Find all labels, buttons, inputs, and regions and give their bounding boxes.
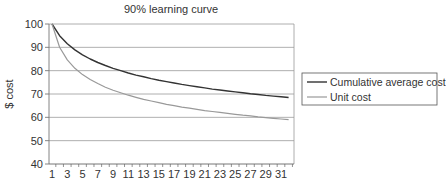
x-tick-label: 25 bbox=[229, 168, 241, 180]
series-lines bbox=[52, 24, 289, 120]
chart-title: 90% learning curve bbox=[124, 3, 218, 15]
y-axis-label: $ cost bbox=[3, 79, 15, 108]
legend-label-unit: Unit cost bbox=[330, 91, 371, 103]
y-tick-label: 100 bbox=[25, 18, 43, 30]
x-tick-label: 5 bbox=[79, 168, 85, 180]
x-tick-label: 29 bbox=[260, 168, 272, 180]
legend: Cumulative average cost Unit cost bbox=[302, 73, 446, 105]
x-tick-label: 7 bbox=[95, 168, 101, 180]
y-tick-label: 80 bbox=[31, 65, 43, 77]
x-tick-label: 9 bbox=[110, 168, 116, 180]
legend-label-cumulative: Cumulative average cost bbox=[330, 76, 446, 88]
y-axis: 405060708090100 bbox=[25, 18, 49, 170]
x-tick-label: 3 bbox=[64, 168, 70, 180]
x-axis: 135791113151719212325272931 bbox=[49, 164, 294, 180]
y-tick-label: 90 bbox=[31, 41, 43, 53]
x-tick-label: 11 bbox=[123, 168, 134, 180]
x-tick-label: 1 bbox=[49, 168, 55, 180]
x-tick-label: 23 bbox=[214, 168, 226, 180]
y-tick-label: 60 bbox=[31, 111, 43, 123]
unit-cost-line bbox=[52, 24, 289, 120]
y-tick-label: 40 bbox=[31, 158, 43, 170]
x-tick-label: 13 bbox=[137, 168, 149, 180]
y-tick-label: 70 bbox=[31, 88, 43, 100]
x-tick-label: 17 bbox=[168, 168, 180, 180]
y-tick-label: 50 bbox=[31, 135, 43, 147]
x-tick-label: 21 bbox=[199, 168, 211, 180]
cumulative-average-line bbox=[52, 24, 289, 98]
x-tick-label: 15 bbox=[153, 168, 165, 180]
x-tick-label: 27 bbox=[244, 168, 256, 180]
x-tick-label: 31 bbox=[275, 168, 287, 180]
learning-curve-chart: 90% learning curve 405060708090100 13579… bbox=[0, 0, 446, 191]
x-tick-label: 19 bbox=[183, 168, 195, 180]
